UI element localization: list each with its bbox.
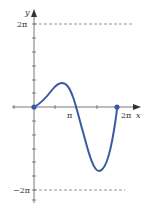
endpoint-2pi	[114, 104, 119, 109]
x-axis-label: x	[136, 111, 141, 120]
y-axis-label: y	[24, 8, 30, 17]
y-tick-label-2pi: 2π	[17, 20, 27, 29]
x-tick-label-pi: π	[67, 111, 72, 120]
y-axis-arrow-icon	[31, 9, 37, 17]
origin-point	[31, 104, 36, 109]
x-axis-arrow-icon	[133, 104, 141, 110]
x-tick-label-2pi: 2π	[121, 111, 131, 120]
y-tick-label-neg-2pi: −2π	[13, 186, 30, 195]
function-graph: y 2π −2π π 2π x	[0, 0, 153, 213]
function-curve	[34, 83, 117, 171]
